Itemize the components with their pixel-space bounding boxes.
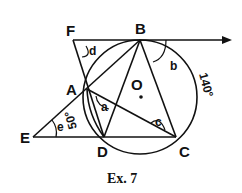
angle-arc-d <box>82 46 88 57</box>
arc-measure-ad: 50° <box>62 110 80 131</box>
label-o: O <box>131 76 143 93</box>
geometry-figure: F B A E D C O d b c a e 140° 50° Ex. 7 <box>0 0 242 193</box>
arrow-head-icon <box>222 36 232 44</box>
center-dot <box>139 95 143 99</box>
label-d: D <box>97 143 108 160</box>
angle-label-e: e <box>57 120 64 134</box>
segment-be <box>33 40 140 137</box>
label-b: B <box>135 20 146 37</box>
figure-caption: Ex. 7 <box>107 171 137 186</box>
angle-arc-e <box>52 120 57 137</box>
angle-label-a: a <box>101 100 108 114</box>
angle-label-d: d <box>89 44 96 58</box>
label-f: F <box>66 22 75 39</box>
label-c: C <box>179 143 190 160</box>
angle-label-c: c <box>155 115 162 129</box>
arc-measure-bc: 140° <box>196 71 216 99</box>
label-e: E <box>20 129 30 146</box>
angle-label-b: b <box>170 59 177 73</box>
label-a: A <box>66 81 77 98</box>
